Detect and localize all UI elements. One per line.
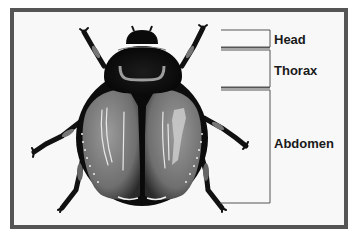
- beetle-head: [126, 30, 158, 44]
- abdomen-label: Abdomen: [274, 137, 334, 150]
- pronotum: [104, 46, 182, 94]
- right-elytron: [145, 89, 202, 199]
- label-brackets: [220, 30, 270, 203]
- head-bracket: [221, 30, 270, 47]
- left-elytron: [82, 89, 140, 199]
- head-label: Head: [274, 33, 306, 46]
- thorax-bracket: [221, 50, 270, 87]
- thorax-label: Thorax: [274, 64, 317, 77]
